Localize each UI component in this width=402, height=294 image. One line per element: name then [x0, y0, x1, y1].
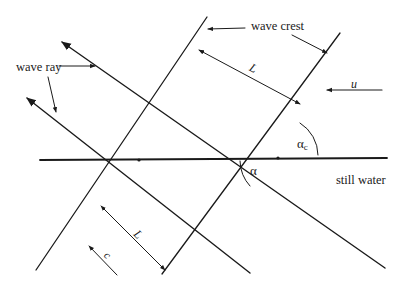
still-water-label: still water — [336, 173, 386, 187]
celerity-label: c — [102, 249, 114, 261]
wave-ray-leader-lower — [48, 77, 56, 112]
wave-ray-label: wave ray — [16, 60, 62, 74]
angle-alpha-arc — [240, 161, 250, 186]
wave-crest-leader-left — [208, 28, 245, 29]
wavelength-dimension-upper — [199, 50, 300, 104]
intersection-point-left — [137, 158, 140, 161]
wave-refraction-diagram: L L c wave crest wave ray u αc α still w… — [0, 0, 402, 294]
current-label: u — [351, 77, 357, 91]
wave-crest-label: wave crest — [251, 19, 305, 33]
still-water-boundary-line — [40, 158, 387, 160]
wave-crest-leader-right — [292, 35, 327, 53]
wavelength-label-upper: L — [246, 60, 260, 76]
intersection-point-right — [276, 156, 279, 159]
wave-crest-line-left — [36, 17, 207, 270]
angle-alpha-label: α — [250, 163, 257, 178]
wavelength-label-lower: L — [130, 226, 146, 242]
wave-ray-lower — [27, 98, 250, 273]
wave-ray-upper — [62, 42, 385, 268]
angle-alpha-c-label: αc — [297, 136, 308, 152]
